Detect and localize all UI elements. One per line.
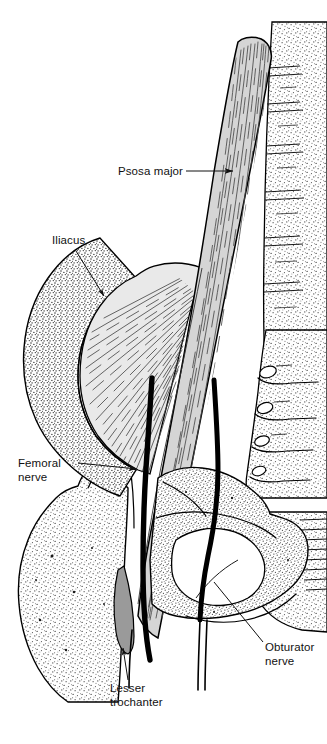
anatomy-illustration: Psosa major Iliacus Femoral nerve Obtura… <box>0 0 327 744</box>
label-obturator-nerve-line2: nerve <box>265 655 294 667</box>
label-psoas-major-text: Psosa major <box>118 165 183 177</box>
label-femoral-nerve-line1: Femoral <box>18 457 61 469</box>
anatomy-figure: Psosa major Iliacus Femoral nerve Obtura… <box>0 0 327 744</box>
sacrum <box>246 330 327 498</box>
label-iliacus-text: Iliacus <box>52 234 85 246</box>
label-obturator-nerve-line1: Obturator <box>265 641 315 653</box>
label-lesser-trochanter-line2: trochanter <box>110 696 163 708</box>
label-lesser-trochanter-line1: Lesser <box>110 682 145 694</box>
label-femoral-nerve-line2: nerve <box>18 471 47 483</box>
